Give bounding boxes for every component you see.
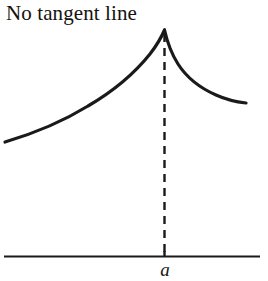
x-tick-label-a: a	[154, 260, 176, 279]
curve-left-branch	[5, 30, 165, 142]
cusp-curve-diagram	[0, 0, 268, 281]
curve-right-branch	[165, 30, 247, 103]
